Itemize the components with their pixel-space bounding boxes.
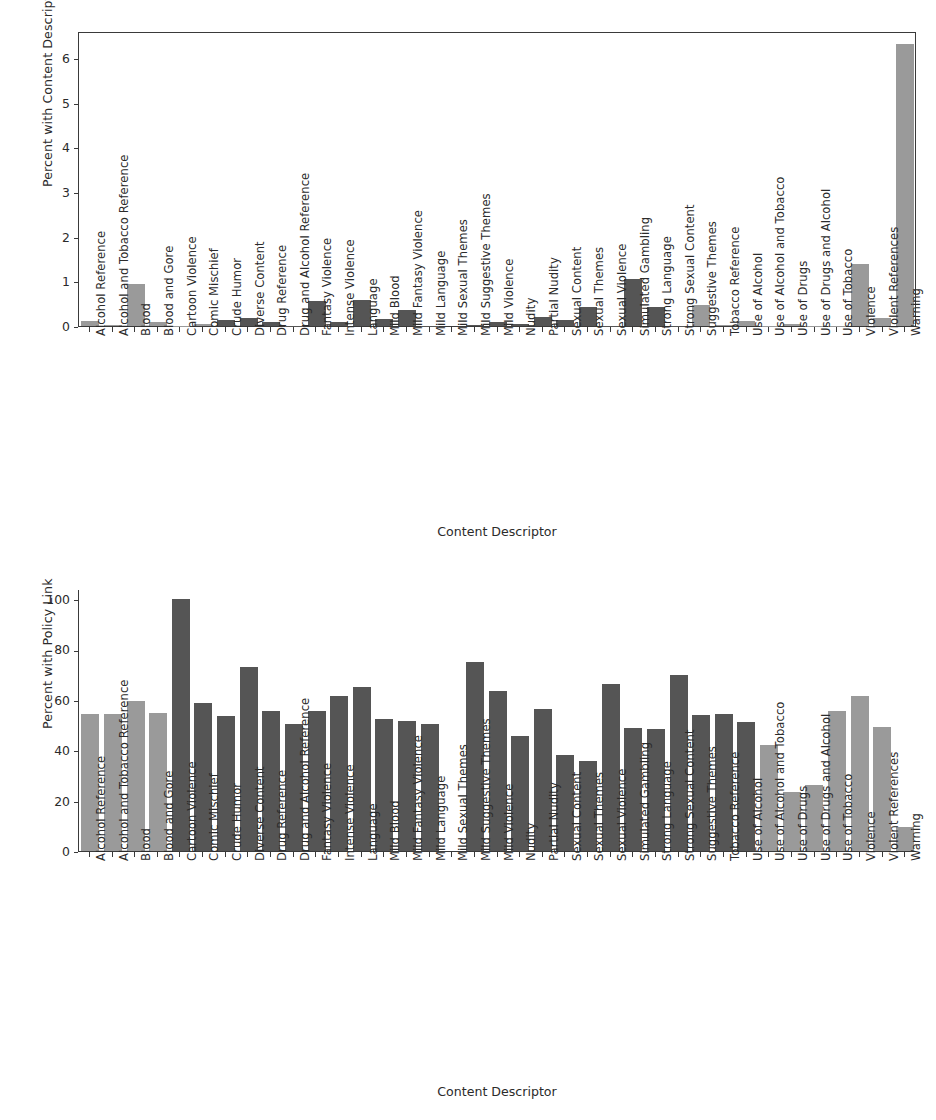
x-tick-label: Use of Alcohol [751, 778, 765, 861]
x-tick-label: Drug and Alcohol Reference [298, 698, 312, 861]
x-tick-label: Warning [909, 813, 923, 861]
x-tick-mark [315, 852, 316, 857]
x-tick-label: Comic Mischief [207, 248, 221, 336]
x-tick-mark [542, 852, 543, 857]
x-tick-label: Sexual Themes [592, 772, 606, 861]
x-tick-label: Diverse Content [253, 241, 267, 336]
bar-series-top [79, 33, 915, 326]
x-tick-mark [383, 852, 384, 857]
x-tick-label: Mild Sexual Themes [456, 219, 470, 336]
x-tick-mark [564, 852, 565, 857]
x-tick-mark [157, 852, 158, 857]
chart-content-descriptor: Percent with Content Descriptor 0123456 … [0, 0, 936, 560]
x-tick-label: Use of Drugs and Alcohol [819, 189, 833, 336]
x-tick-mark [429, 327, 430, 332]
x-tick-label: Strong Sexual Content [683, 204, 697, 336]
y-tick-label: 5 [44, 96, 70, 111]
x-tick-mark [519, 327, 520, 332]
x-tick-mark [451, 327, 452, 332]
bar-series-bottom [79, 590, 916, 851]
x-tick-label: Alcohol and Tobacco Reference [117, 155, 131, 337]
x-tick-label: Use of Tobacco [841, 249, 855, 336]
x-tick-label: Violent References [887, 752, 901, 861]
y-tick-label: 3 [44, 185, 70, 200]
x-tick-mark [338, 852, 339, 857]
x-tick-mark [134, 327, 135, 332]
x-tick-label: Drug Reference [275, 770, 289, 861]
chart-policy-link: Percent with Policy Link 020406080100 Al… [0, 560, 936, 1120]
x-tick-label: Blood [139, 828, 153, 861]
y-tick-label: 0 [44, 319, 70, 334]
x-tick-label: Mild Language [434, 251, 448, 336]
x-tick-label: Tobacco Reference [728, 227, 742, 336]
x-tick-label: Mild Blood [388, 800, 402, 861]
x-tick-label: Use of Alcohol [751, 253, 765, 336]
x-tick-mark [315, 327, 316, 332]
x-tick-label: Diverse Content [253, 766, 267, 861]
x-tick-mark [429, 852, 430, 857]
x-tick-label: Sexual Content [570, 772, 584, 861]
x-tick-label: Alcohol and Tobacco Reference [117, 680, 131, 862]
y-tick-label: 4 [44, 140, 70, 155]
x-tick-mark [225, 852, 226, 857]
x-tick-label: Violent References [887, 227, 901, 336]
x-tick-label: Blood and Gore [162, 771, 176, 861]
x-tick-mark [859, 852, 860, 857]
x-tick-mark [361, 327, 362, 332]
x-tick-label: Language [366, 278, 380, 336]
x-tick-label: Use of Alcohol and Tobacco [773, 177, 787, 336]
x-tick-label: Drug and Alcohol Reference [298, 173, 312, 336]
y-tick-label: 40 [44, 743, 70, 758]
x-tick-mark [587, 852, 588, 857]
x-tick-label: Cartoon Violence [185, 761, 199, 861]
x-tick-mark [134, 852, 135, 857]
x-tick-mark [293, 327, 294, 332]
x-axis-title-top: Content Descriptor [78, 524, 916, 539]
x-axis-title-bottom: Content Descriptor [78, 1084, 916, 1099]
x-tick-label: Warning [909, 288, 923, 336]
x-tick-mark [497, 852, 498, 857]
x-tick-mark [179, 852, 180, 857]
x-tick-mark [882, 327, 883, 332]
x-tick-label: Sexual Violence [615, 244, 629, 336]
x-tick-label: Crude Humor [230, 258, 244, 336]
x-tick-mark [564, 327, 565, 332]
x-tick-mark [610, 327, 611, 332]
x-tick-label: Blood [139, 303, 153, 336]
x-tick-mark [632, 327, 633, 332]
x-tick-mark [791, 327, 792, 332]
x-tick-mark [859, 327, 860, 332]
x-tick-mark [904, 852, 905, 857]
x-tick-label: Violence [864, 811, 878, 861]
x-tick-label: Nudity [524, 823, 538, 861]
x-tick-mark [904, 327, 905, 332]
x-tick-label: Strong Language [660, 761, 674, 861]
x-tick-mark [542, 327, 543, 332]
x-tick-mark [814, 327, 815, 332]
x-tick-label: Mild Blood [388, 275, 402, 336]
x-tick-mark [814, 852, 815, 857]
x-tick-label: Drug Reference [275, 245, 289, 336]
x-tick-mark [700, 327, 701, 332]
x-tick-mark [361, 852, 362, 857]
x-tick-label: Mild Sexual Themes [456, 744, 470, 861]
figure-page: Percent with Content Descriptor 0123456 … [0, 0, 936, 1120]
y-tick-label: 60 [44, 693, 70, 708]
x-tick-mark [89, 852, 90, 857]
x-tick-mark [497, 327, 498, 332]
y-tick-label: 100 [44, 592, 70, 607]
x-tick-label: Sexual Themes [592, 247, 606, 336]
x-tick-label: Use of Alcohol and Tobacco [773, 702, 787, 861]
y-tick-label: 80 [44, 642, 70, 657]
x-tick-mark [89, 327, 90, 332]
x-tick-label: Blood and Gore [162, 246, 176, 336]
x-tick-label: Suggestive Themes [705, 221, 719, 336]
x-tick-mark [202, 852, 203, 857]
x-tick-mark [678, 852, 679, 857]
plot-area-bottom [78, 590, 916, 852]
x-tick-mark [746, 852, 747, 857]
x-tick-label: Mild Violence [502, 259, 516, 336]
y-tick-label: 20 [44, 794, 70, 809]
y-axis-title-top: Percent with Content Descriptor [40, 0, 55, 187]
x-tick-mark [293, 852, 294, 857]
